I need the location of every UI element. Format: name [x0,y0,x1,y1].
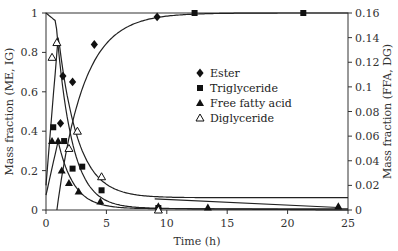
legend-label: Triglyceride [210,82,278,95]
x-tick-label: 5 [103,217,110,230]
triglyceride-marker [50,124,56,130]
y-tick-label: 0.2 [21,165,39,178]
legend-label: Free fatty acid [210,97,292,110]
triglyceride-marker [70,166,76,172]
diglyceride-marker [65,144,73,151]
y-right-tick-label: 0 [355,204,362,217]
diglyceride-marker [48,53,56,60]
x-tick-label: 0 [43,217,50,230]
diglyceride-marker [98,173,106,180]
plot-area: 051015202500.20.40.60.8100.020.040.060.0… [0,0,398,251]
x-tick-label: 20 [281,217,295,230]
legend-label: Ester [210,67,241,80]
ffa-curve [46,141,348,209]
x-tick-label: 15 [220,217,234,230]
y-right-tick-label: 0.04 [355,155,380,168]
triglyceride-marker [300,10,306,16]
triglyceride-marker [99,187,105,193]
x-tick-label: 10 [160,217,174,230]
y-right-tick-label: 0.02 [355,179,380,192]
y-right-tick-label: 0.06 [355,130,380,143]
free-fatty-acid-marker [75,188,83,195]
legend-label: Diglyceride [210,112,274,125]
triglyceride-marker [192,10,198,16]
x-axis-label: Time (h) [174,235,221,248]
y-tick-label: 0 [31,204,38,217]
free-fatty-acid-marker [58,167,66,174]
y-right-tick-label: 0.14 [355,32,380,45]
chart: 051015202500.20.40.60.8100.020.040.060.0… [0,0,398,251]
y-right-tick-label: 0.12 [355,56,380,69]
ester-marker [91,40,98,49]
legend-marker [197,85,203,91]
y-tick-label: 0.6 [21,86,39,99]
y-axis-label: Mass fraction (ME, IG) [3,48,16,176]
legend-marker [196,114,204,121]
free-fatty-acid-marker [334,202,342,209]
y-tick-label: 0.4 [21,125,39,138]
ester-curve [57,13,348,210]
ester-marker [154,13,161,22]
y-right-tick-label: 0.16 [355,7,380,20]
triglyceride-marker [61,138,67,144]
y-right-axis-label: Mass fraction (FFA, DG) [381,44,394,179]
triglyceride-marker [79,164,85,170]
ester-marker [57,119,64,128]
y-right-tick-label: 0.1 [355,81,373,94]
free-fatty-acid-marker [54,137,62,144]
triglyceride-curve [46,13,348,210]
plot-frame [46,13,348,210]
diglyceride-curve [46,38,348,198]
ester-marker [69,78,76,87]
x-tick-label: 25 [341,217,355,230]
free-fatty-acid-marker [204,204,212,211]
y-tick-label: 1 [31,7,38,20]
y-tick-label: 0.8 [21,46,39,59]
legend-marker [196,99,204,106]
tail-line [155,199,339,208]
diglyceride-marker [53,39,61,46]
y-right-tick-label: 0.08 [355,106,380,119]
legend-marker [196,69,203,78]
